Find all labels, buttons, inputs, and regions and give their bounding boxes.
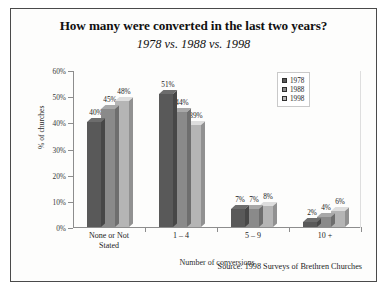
y-tick-label: 50% <box>52 93 66 102</box>
bar-side-face <box>129 98 133 227</box>
bar-front <box>231 209 245 227</box>
bar-value-label: 6% <box>335 197 345 206</box>
x-tick <box>217 227 218 232</box>
bar-value-label: 48% <box>117 87 130 96</box>
y-tick-label: 0% <box>56 224 66 233</box>
y-tick <box>68 202 73 203</box>
y-tick <box>68 228 73 229</box>
bar-group: 40%45%48% <box>87 70 133 227</box>
x-tick <box>289 227 290 232</box>
chart-legend[interactable]: 197819881998 <box>277 72 310 107</box>
x-tick <box>145 227 146 232</box>
legend-swatch <box>282 87 287 92</box>
bar-front <box>303 222 317 227</box>
x-category-label: None or Not Stated <box>89 231 129 251</box>
y-tick <box>68 97 73 98</box>
bar-group: 51%44%39% <box>159 70 205 227</box>
bar-side-face <box>101 119 105 227</box>
bar-1978-4[interactable] <box>303 222 317 227</box>
x-category-label: 5 – 9 <box>245 231 261 241</box>
y-tick-label: 30% <box>52 145 66 154</box>
x-tick <box>361 227 362 232</box>
y-tick-label: 60% <box>52 67 66 76</box>
legend-swatch <box>282 78 287 83</box>
bar-side-face <box>273 202 277 227</box>
x-category-label: 10 + <box>318 231 333 241</box>
bar-value-label: 44% <box>175 98 188 107</box>
bar-side-face <box>259 205 263 227</box>
legend-label: 1978 <box>290 77 304 85</box>
legend-swatch <box>282 96 287 101</box>
bar-side-face <box>201 121 205 227</box>
y-tick <box>68 176 73 177</box>
chart-frame: How many were converted in the last two … <box>10 8 377 282</box>
y-tick-label: 20% <box>52 171 66 180</box>
bar-1978-2[interactable] <box>159 94 173 227</box>
legend-item-1978[interactable]: 1978 <box>282 76 304 85</box>
legend-label: 1988 <box>290 86 304 94</box>
bar-value-label: 39% <box>189 111 202 120</box>
plot-right-edge <box>360 71 361 228</box>
y-tick-label: 40% <box>52 119 66 128</box>
bar-value-label: 51% <box>161 80 174 89</box>
source-note: Source: 1998 Surveys of Brethren Churche… <box>218 262 362 271</box>
bar-side-face <box>245 205 249 227</box>
y-tick <box>68 71 73 72</box>
bar-side-face <box>173 90 177 227</box>
plot-area: 0%10%20%30%40%50%60% 40%45%48%51%44%39%7… <box>73 71 361 228</box>
bar-value-label: 2% <box>307 208 317 217</box>
bar-value-label: 8% <box>263 192 273 201</box>
bar-front <box>159 94 173 227</box>
legend-label: 1998 <box>290 95 304 103</box>
bar-side-face <box>187 108 191 227</box>
bar-group: 7%7%8% <box>231 70 277 227</box>
bar-value-label: 7% <box>249 195 259 204</box>
chart-subtitle: 1978 vs. 1988 vs. 1998 <box>11 37 376 52</box>
y-tick-label: 10% <box>52 197 66 206</box>
bar-1978-1[interactable] <box>87 122 101 227</box>
y-tick <box>68 123 73 124</box>
legend-item-1998[interactable]: 1998 <box>282 94 304 103</box>
bar-side-face <box>345 208 349 227</box>
y-axis-title: % of churches <box>37 106 46 149</box>
bar-value-label: 7% <box>235 195 245 204</box>
bar-1978-3[interactable] <box>231 209 245 227</box>
bar-side-face <box>115 106 119 227</box>
y-axis-line <box>73 71 74 228</box>
bar-front <box>87 122 101 227</box>
chart-title: How many were converted in the last two … <box>11 18 376 34</box>
x-category-label: 1 – 4 <box>173 231 189 241</box>
y-tick <box>68 150 73 151</box>
bar-value-label: 4% <box>321 203 331 212</box>
legend-item-1988[interactable]: 1988 <box>282 85 304 94</box>
